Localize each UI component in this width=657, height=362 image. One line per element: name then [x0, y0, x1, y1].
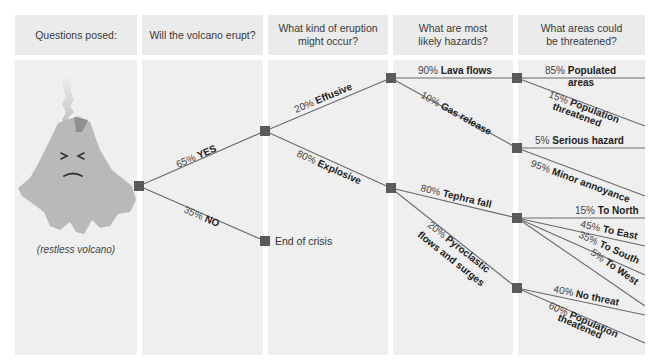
node-end-of-crisis: [260, 236, 270, 246]
branch-label-populated-areas-line2: areas: [568, 77, 595, 88]
branch-label-explosive: 80% Explosive: [295, 148, 363, 187]
angry-volcano-icon: [18, 72, 136, 234]
event-tree-diagram: 65% YES 35% NO 20% Effusive 80% Explosiv…: [0, 0, 657, 362]
branch-label-tephra-fall: 80% Tephra fall: [420, 182, 493, 210]
branch-label-to-north: 15% To North: [575, 205, 639, 216]
branch-label-populated-areas: 85% Populated: [545, 65, 616, 76]
node-explosive: [386, 183, 396, 193]
branch-label-serious-hazard: 5% Serious hazard: [535, 135, 624, 146]
node-gas-release: [512, 143, 522, 153]
branch-label-yes: 65% YES: [174, 142, 218, 169]
node-lava-flows: [512, 73, 522, 83]
node-yes: [260, 126, 270, 136]
branch-label-minor-annoyance: 95% Minor annoyance: [529, 158, 632, 205]
node-effusive: [386, 73, 396, 83]
node-tephra-fall: [512, 213, 522, 223]
node-pyroclastic: [512, 283, 522, 293]
branch-label-lava-flows: 90% Lava flows: [418, 65, 492, 76]
branch-label-gas-release: 10% Gas release: [419, 89, 494, 137]
branch-lines: [139, 78, 645, 343]
node-root: [134, 181, 144, 191]
branch-label-no: 35% NO: [182, 204, 221, 229]
